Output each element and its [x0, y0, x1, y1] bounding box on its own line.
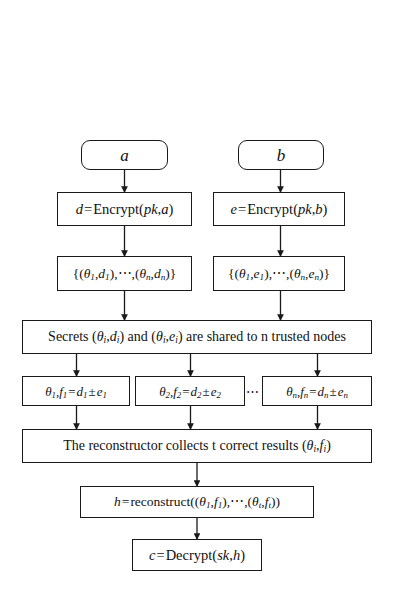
node-encrypt-b: e=Encrypt(pk,b): [213, 192, 345, 226]
node-secrets-shared-label: Secrets (θi,di) and (θi,ei) are shared t…: [48, 330, 346, 344]
node-reconstructor: The reconstructor collects t correct res…: [22, 429, 372, 463]
node-trusted-n: θn,fn=dn±en: [262, 376, 372, 406]
node-trusted-1-label: θ1,f1=d1±e1: [45, 385, 107, 398]
node-trusted-n-label: θn,fn=dn±en: [286, 385, 348, 398]
node-encrypt-b-label: e=Encrypt(pk,b): [231, 202, 328, 217]
node-encrypt-a-label: d=Encrypt(pk,a): [76, 202, 174, 217]
node-shares-e: {(θ1,e1),⋯,(θn,en)}: [213, 256, 345, 291]
node-input-b: b: [238, 140, 324, 170]
node-secrets-shared: Secrets (θi,di) and (θi,ei) are shared t…: [22, 320, 372, 354]
ellipsis-between-trusted-nodes: ⋯: [246, 385, 260, 398]
node-reconstructor-label: The reconstructor collects t correct res…: [63, 439, 331, 453]
node-shares-e-label: {(θ1,e1),⋯,(θn,en)}: [228, 267, 330, 281]
node-input-a: a: [81, 140, 168, 170]
node-shares-d-label: {(θ1,d1),⋯,(θn,dn)}: [73, 267, 177, 281]
node-trusted-1: θ1,f1=d1±e1: [22, 376, 130, 406]
node-trusted-2: θ2,f2=d2±e2: [135, 376, 245, 406]
node-shares-d: {(θ1,d1),⋯,(θn,dn)}: [57, 256, 192, 291]
node-decrypt: c=Decrypt(sk,h): [132, 539, 262, 571]
node-input-b-label: b: [277, 147, 286, 164]
node-decrypt-label: c=Decrypt(sk,h): [149, 548, 245, 563]
node-encrypt-a: d=Encrypt(pk,a): [57, 192, 192, 226]
node-trusted-2-label: θ2,f2=d2±e2: [159, 385, 221, 398]
flowchart-diagram: a b d=Encrypt(pk,a) e=Encrypt(pk,b) {(θ1…: [0, 0, 394, 605]
node-reconstruct-label: h=reconstruct((θ1,f1),⋯,(θt,ft)): [114, 495, 280, 509]
node-input-a-label: a: [120, 147, 129, 164]
node-reconstruct: h=reconstruct((θ1,f1),⋯,(θt,ft)): [80, 486, 314, 518]
